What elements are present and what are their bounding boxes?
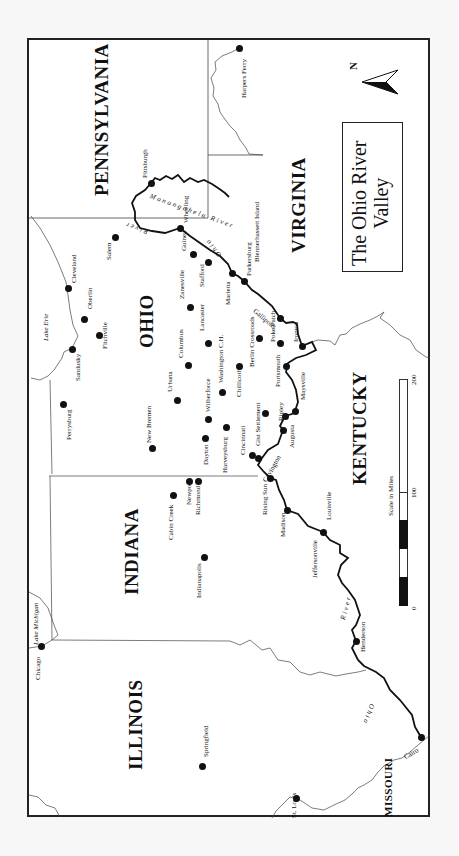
city-label-cleveland: Cleveland [71,255,78,283]
city-label-gist-settlement: Gist Settlement [255,403,262,446]
city-label-maysville: Maysville [300,372,307,400]
state-label-indiana: INDIANA [122,508,141,595]
city-label-springfield: Springfield [203,726,210,758]
city-label-guinea: Guinea [181,231,188,251]
city-label-blennerhassett-island: Blennerhassett Island [254,202,261,262]
city-dot-guinea [190,251,197,258]
state-label-illinois: ILLINOIS [126,679,145,770]
city-dot-maysville [292,408,299,415]
city-dot-ironton [299,343,306,350]
city-label-harpers-ferry: Harpers Ferry [241,59,248,98]
city-dot-pittsburgh [148,180,155,187]
city-label-sandusky: Sandusky [75,354,82,381]
city-dot-indianapolis [201,554,208,561]
monongahela-river [151,175,229,197]
city-label-ripley: Ripley [278,402,285,421]
city-label-dayton: Dayton [203,444,210,465]
map-title: The Ohio River Valley [348,140,392,266]
city-dot-sandusky [69,346,76,353]
city-label-stafford: Stafford [199,264,206,287]
city-dot-perrysburg [60,401,67,408]
city-label-newport: Newport [186,481,193,506]
city-dot-rising-sun [267,475,274,482]
city-label-cabin-creek: Cabin Creek [168,505,175,540]
city-dot-columbus [185,362,192,369]
city-label-marietta: Marietta [225,281,232,305]
scale-tick-0: 0 [411,607,418,611]
city-label-perrysburg: Perrysburg [66,409,73,440]
city-label-chillicothe: Chillicothe [236,366,243,397]
city-label-madison: Madison [280,513,287,538]
city-dot-portsmouth [283,363,290,370]
city-label-pittsburgh: Pittsburgh [142,149,149,178]
state-label-virginia: VIRGINIA [289,157,308,253]
city-label-salem: Salem [106,243,113,261]
city-dot-chicago [38,643,45,650]
north-arrow-icon [360,68,400,96]
lake-michigan-label: Lake Michigan [33,603,40,645]
city-dot-cairo [418,734,425,741]
potomac-boundary [211,48,263,155]
state-label-ohio: OHIO [137,294,156,348]
lake-erie-shore [31,216,78,380]
city-label-urbana: Urbana [167,371,174,392]
north-label: N [347,62,359,70]
city-label-new-bremen: New Bremen [146,406,153,443]
city-label-rising-sun: Rising Sun [262,484,269,515]
city-label-richmond: Richmond [195,486,202,515]
city-label-jeffersonville: Jeffersonville [312,540,319,578]
va-ky-border [312,312,430,358]
city-dot-marietta [229,270,236,277]
city-dot-louisville [320,529,327,536]
state-label-missouri: MISSOURI [383,757,394,817]
city-label-cincinnati: Cincinnati [240,426,247,455]
city-label-wheeling: Wheeling [183,196,190,223]
city-dot-salem [112,234,119,241]
city-dot-richmond [195,478,202,485]
city-label-portsmouth: Portsmouth [275,355,282,387]
il-corner [29,795,60,817]
city-label-zanesville: Zanesville [179,270,186,299]
city-dot-oberlin [81,316,88,323]
map-title-line2: Valley [370,140,392,266]
map-title-line1: The Ohio River [348,140,370,266]
city-dot-wilberforce [205,416,212,423]
pa-border [29,39,208,218]
city-label-lancaster: Lancaster [199,304,206,331]
city-dot-poke-patch [277,340,284,347]
city-label-columbus: Columbus [178,329,185,358]
oh-mi-border [50,380,52,474]
scale-tick-200: 200 [411,375,418,386]
scale-title: Scale in Miles [388,476,395,516]
city-dot-new-bremen [149,445,156,452]
city-dot-gallipolis [277,315,284,322]
city-label-wilberforce: Wilberforce [205,378,212,412]
city-label-berlin-crossroads: Berlin Crossroads [249,317,256,367]
city-dot-parkersburg [241,278,248,285]
lake-erie-label: Lake Erie [43,314,50,341]
city-dot-dayton [202,435,209,442]
city-dot-springfield [199,763,206,770]
city-label-augusta: Augusta [289,425,296,448]
city-label-washington-ch: Washington C.H. [218,335,225,383]
city-label-oberlin: Oberlin [87,288,94,309]
city-label-fitchville: Fitchville [102,322,109,349]
city-dot-lancaster [205,340,212,347]
city-dot-harpers-ferry [236,45,243,52]
city-dot-cabin-creek [170,492,177,499]
state-label-pennsylvania: PENNSYLVANIA [92,43,111,196]
city-dot-berlin-crossroads [256,335,263,342]
city-label-st-louis: St. Louis [291,793,298,818]
city-label-ironton: Ironton [293,321,300,342]
city-dot-covington [255,455,262,462]
city-dot-augusta [280,427,287,434]
city-dot-cleveland [65,285,72,292]
city-label-louisville: Louisville [326,492,333,520]
city-dot-washington-ch [219,389,226,396]
city-dot-zanesville [187,304,194,311]
scale-tick-100: 100 [411,488,418,499]
city-label-harveysburg: Harveysburg [222,437,229,473]
city-label-chicago: Chicago [35,657,42,680]
ohio-river-valley-map: PENNSYLVANIA VIRGINIA OHIO INDIANA KENTU… [0,0,459,856]
state-label-kentucky: KENTUCKY [350,371,369,485]
